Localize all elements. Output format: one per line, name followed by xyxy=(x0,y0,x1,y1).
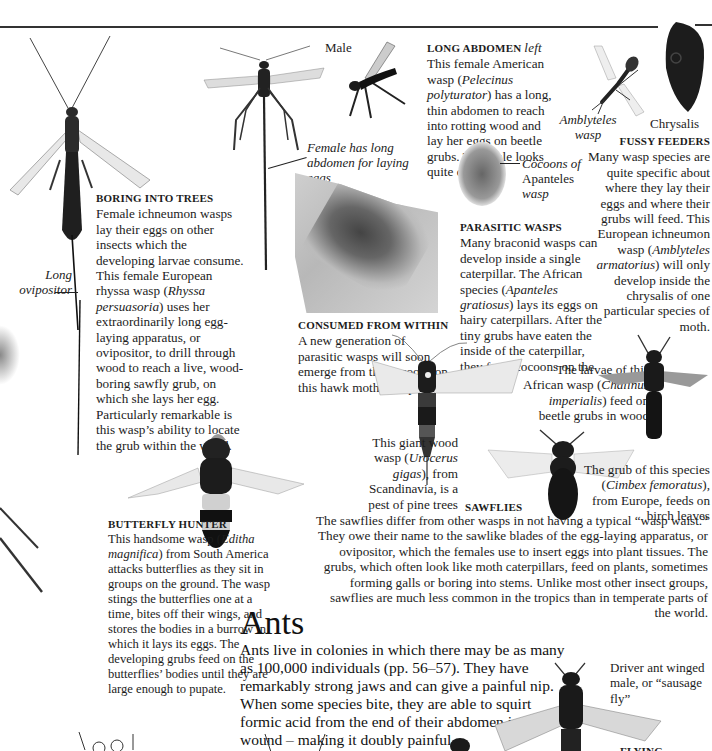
chrysalis-image xyxy=(660,18,710,114)
ants-title: Ants xyxy=(240,605,304,641)
butterfly-heading: BUTTERFLY HUNTER xyxy=(108,517,278,532)
amblyteles-wasp-image xyxy=(588,40,658,120)
ovipositor-pointer xyxy=(55,292,78,293)
parasitic-heading: PARASITIC WASPS xyxy=(460,220,610,235)
flying-sausages-heading: FLYING SAUSAGES xyxy=(620,744,712,751)
plant-stems xyxy=(0,500,50,600)
ovipositor-line xyxy=(76,300,86,460)
female-has-long-abdomen-caption: Female has long abdomen for laying eggs xyxy=(307,140,427,185)
sawflies-body: The sawflies differ from other wasps in … xyxy=(316,513,708,621)
driver-ant-image xyxy=(495,655,665,751)
top-rule xyxy=(0,26,658,28)
hawk-moth-caterpillar-photo xyxy=(295,173,438,313)
flying-sausages-heading-wrap: FLYING SAUSAGES xyxy=(620,744,712,751)
consumed-heading: CONSUMED FROM WITHIN xyxy=(298,318,450,333)
chrysalis-caption: Chrysalis xyxy=(650,116,699,131)
apanteles-cocoons-image xyxy=(452,138,512,208)
cocoons-pointer xyxy=(500,163,520,164)
fussy-heading: FUSSY FEEDERS xyxy=(580,134,710,149)
blurred-object xyxy=(0,325,20,385)
urocerus-caption: This giant wood wasp (Urocerus gigas), f… xyxy=(350,435,458,512)
pelecinus-male-image xyxy=(335,38,415,133)
book-page: Long ovipositor BORING INTO TREES Female… xyxy=(0,0,712,751)
chalinus-wasp-image xyxy=(598,333,710,443)
ant-legs-fragments xyxy=(75,732,475,751)
cocoons-caption: Cocoons of Apanteles wasp xyxy=(522,156,581,201)
